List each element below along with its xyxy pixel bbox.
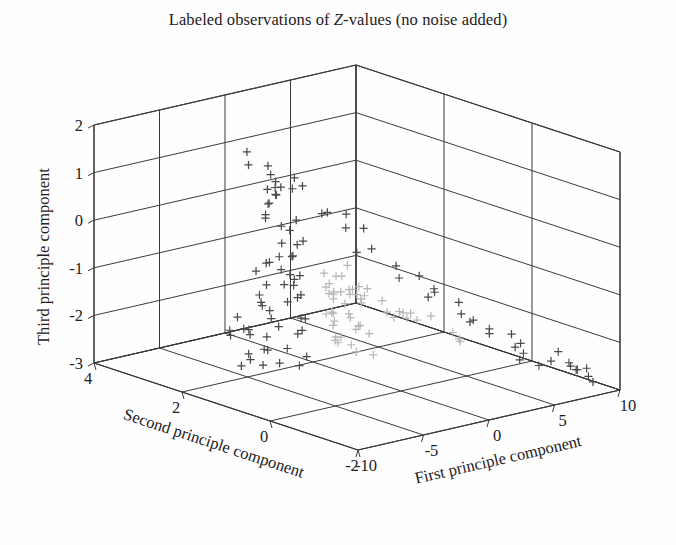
svg-text:5: 5 bbox=[558, 411, 566, 430]
y-axis-title: Second principle component bbox=[121, 404, 307, 481]
svg-text:-1: -1 bbox=[69, 259, 83, 278]
axis-frame bbox=[94, 65, 620, 450]
svg-text:1: 1 bbox=[75, 164, 83, 183]
figure-container: Labeled observations of Z-values (no noi… bbox=[0, 0, 676, 545]
svg-text:0: 0 bbox=[75, 211, 83, 230]
svg-text:-10: -10 bbox=[355, 456, 377, 475]
svg-text:2: 2 bbox=[172, 398, 180, 417]
scatter3d-plot: 210-1-2-3420-2-10-50510Second principle … bbox=[0, 0, 676, 545]
svg-text:0: 0 bbox=[493, 426, 501, 445]
svg-text:0: 0 bbox=[260, 427, 268, 446]
svg-text:-5: -5 bbox=[425, 441, 439, 460]
svg-text:-3: -3 bbox=[69, 354, 83, 373]
tick-marks bbox=[88, 125, 620, 457]
grid-lines bbox=[94, 65, 620, 450]
svg-text:2: 2 bbox=[75, 116, 83, 135]
svg-text:-2: -2 bbox=[69, 306, 83, 325]
svg-text:10: 10 bbox=[620, 396, 637, 415]
data-points bbox=[226, 148, 597, 386]
svg-text:4: 4 bbox=[84, 369, 92, 388]
